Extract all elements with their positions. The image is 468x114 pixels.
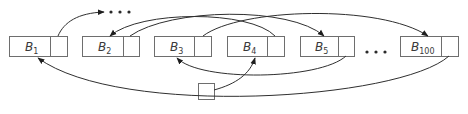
block-b3-pointer xyxy=(195,37,212,57)
block-b3: B3 xyxy=(155,37,212,57)
block-b4-pointer xyxy=(268,37,285,57)
link-b1-to-ellipsis xyxy=(58,12,104,36)
block-b1: B1 xyxy=(10,37,68,57)
block-b5-pointer xyxy=(339,37,355,57)
block-b4: B4 xyxy=(228,37,285,57)
link-b3-to-b100 xyxy=(203,13,428,36)
middle-ellipsis xyxy=(365,50,386,53)
link-b100-to-b1 xyxy=(38,56,449,96)
block-b100-pointer xyxy=(442,37,459,57)
top-ellipsis xyxy=(109,10,130,13)
block-b2: B2 xyxy=(83,37,140,57)
block-b5: B5 xyxy=(301,37,355,57)
linked-blocks-diagram: B1 B2 B3 B4 B5 B100 xyxy=(0,0,468,114)
head-pointer-box xyxy=(199,84,215,100)
link-b5-to-b3 xyxy=(177,56,346,75)
block-b2-pointer xyxy=(124,37,140,57)
block-b100: B100 xyxy=(401,37,459,57)
block-b1-pointer xyxy=(51,37,68,57)
